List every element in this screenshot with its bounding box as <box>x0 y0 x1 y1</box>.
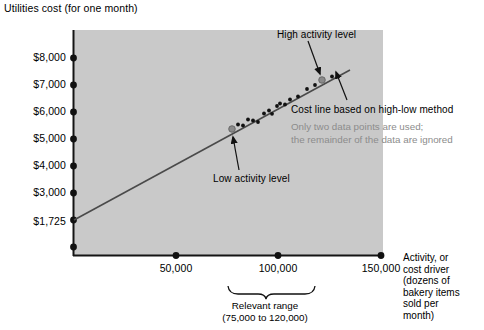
cost-line-note-line1: Only two data points are used; <box>291 121 453 134</box>
x-axis-caption-line4: bakery items <box>403 287 483 299</box>
relevant-range-values: (75,000 to 120,000) <box>205 312 325 324</box>
y-tick-label-6000: $6,000 <box>2 105 66 117</box>
x-axis-caption-line5: sold per <box>403 298 483 310</box>
cost-line-note-line2: the remainder of the data are ignored <box>291 134 453 147</box>
low-activity-point <box>229 126 236 133</box>
x-axis-caption-line3: (dozens of <box>403 275 483 287</box>
x-axis-caption-line6: month) <box>403 310 483 322</box>
x-axis-caption: Activity, or cost driver (dozens of bake… <box>403 252 483 322</box>
high-activity-point <box>319 77 326 84</box>
high-activity-annotation: High activity level <box>277 29 356 40</box>
y-tick-label-5000: $5,000 <box>2 132 66 144</box>
chart-figure: Utilities cost (for one month) <box>0 0 484 330</box>
y-tick-label-7000: $7,000 <box>2 78 66 90</box>
x-tick-label-50000: 50,000 <box>146 262 206 274</box>
y-tick-label-8000: $8,000 <box>2 51 66 63</box>
low-activity-annotation: Low activity level <box>213 173 290 184</box>
x-axis-caption-line1: Activity, or <box>403 252 483 264</box>
relevant-range-label: Relevant range (75,000 to 120,000) <box>205 300 325 324</box>
y-tick-label-4000: $4,000 <box>2 159 66 171</box>
x-axis-caption-line2: cost driver <box>403 264 483 276</box>
y-tick-label-3000: $3,000 <box>2 186 66 198</box>
y-tick-label-1725: $1,725 <box>2 215 66 227</box>
cost-line-note: Only two data points are used; the remai… <box>291 121 453 146</box>
relevant-range-title: Relevant range <box>205 300 325 312</box>
relevant-range-brace <box>228 286 315 299</box>
cost-line-annotation: Cost line based on high-low method <box>291 104 453 115</box>
x-tick-label-100000: 100,000 <box>246 262 310 274</box>
